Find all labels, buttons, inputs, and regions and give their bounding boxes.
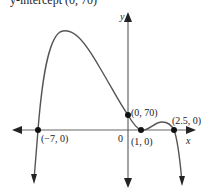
- curve-left-arrow-icon: [31, 174, 37, 184]
- polynomial-curve: [34, 31, 182, 182]
- x-axis-label: x: [185, 135, 191, 146]
- point-1-0: [138, 127, 144, 133]
- y-axis-down-arrow-icon: [124, 178, 132, 188]
- y-axis-up-arrow-icon: [124, 12, 132, 22]
- curve-right-arrow-icon: [179, 176, 185, 186]
- point-label-1-0: (1, 0): [131, 136, 153, 148]
- x-axis-left-arrow-icon: [12, 126, 22, 134]
- y-axis-label: y: [119, 11, 125, 22]
- point-label-0-70: (0, 70): [131, 107, 158, 119]
- point-2-5-0: [171, 127, 177, 133]
- origin-label: 0: [118, 133, 123, 144]
- polynomial-graph: x y 0 (−7, 0) (0, 70) (1, 0) (2.5, 0): [0, 0, 212, 193]
- point-label-neg7: (−7, 0): [41, 133, 68, 145]
- y-axis: [124, 12, 132, 188]
- point-label-2-5: (2.5, 0): [172, 115, 201, 127]
- x-axis-right-arrow-icon: [186, 126, 196, 134]
